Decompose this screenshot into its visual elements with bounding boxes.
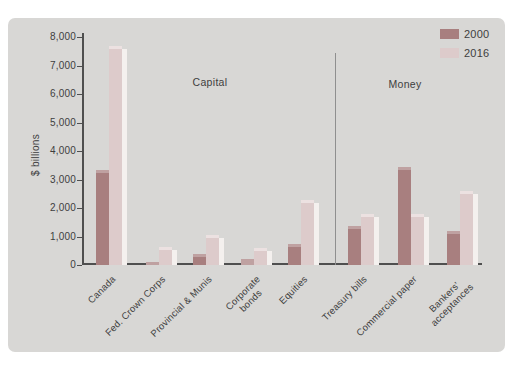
y-tick-mark: [77, 151, 82, 152]
bar-side-highlight: [267, 251, 272, 265]
y-tick-label: 2,000: [36, 202, 76, 213]
bar-bankers-acceptances-2016: [460, 191, 473, 265]
bar-commercial-paper-2000: [398, 167, 411, 265]
y-tick-label: 0: [36, 259, 76, 270]
y-tick-label: 1,000: [36, 231, 76, 242]
y-tick-label: 5,000: [36, 117, 76, 128]
x-axis-label-canada: Canada: [86, 274, 118, 306]
bar-commercial-paper-2016: [411, 214, 424, 265]
y-tick-label: 3,000: [36, 174, 76, 185]
y-axis-line: [82, 33, 84, 265]
y-tick-label: 4,000: [36, 145, 76, 156]
y-tick-label: 8,000: [36, 31, 76, 42]
figure: $ billions 01,0002,0003,0004,0005,0006,0…: [0, 0, 518, 365]
legend-swatch-2000: [440, 29, 459, 39]
bar-treasury-bills-2000: [348, 226, 361, 265]
bar-equities-2016: [301, 200, 314, 265]
bar-side-highlight: [219, 238, 224, 265]
bar-fed-crown-corps-2016: [159, 247, 172, 265]
y-tick-label: 7,000: [36, 60, 76, 71]
x-axis-label-treasury-bills: Treasury bills: [320, 274, 369, 323]
y-tick-mark: [77, 123, 82, 124]
bar-side-highlight: [374, 217, 379, 265]
legend-item-2000: 2000: [440, 28, 489, 40]
x-axis-label-equities: Equities: [277, 274, 310, 307]
bar-corporate-bonds-2000: [241, 259, 254, 265]
bar-provincial-munis-2000: [193, 254, 206, 265]
y-tick-mark: [77, 265, 82, 266]
legend-label-2000: 2000: [464, 28, 489, 40]
bar-side-highlight: [473, 194, 478, 265]
section-label-money: Money: [388, 78, 421, 90]
bar-side-highlight: [122, 49, 127, 265]
bar-canada-2016: [109, 46, 122, 265]
chart-panel: $ billions 01,0002,0003,0004,0005,0006,0…: [8, 18, 505, 352]
y-tick-mark: [77, 66, 82, 67]
legend-swatch-2016: [440, 48, 459, 58]
y-tick-mark: [77, 237, 82, 238]
y-tick-mark: [77, 180, 82, 181]
y-tick-label: 6,000: [36, 88, 76, 99]
y-tick-mark: [77, 37, 82, 38]
section-label-capital: Capital: [193, 76, 228, 88]
legend: 20002016: [440, 28, 489, 66]
bar-bankers-acceptances-2000: [447, 231, 460, 265]
y-tick-mark: [77, 94, 82, 95]
x-axis-label-corporate-bonds: Corporatebonds: [224, 274, 271, 321]
bar-corporate-bonds-2016: [254, 248, 267, 265]
bar-treasury-bills-2016: [361, 214, 374, 265]
section-divider-line: [335, 53, 336, 265]
bar-fed-crown-corps-2000: [146, 262, 159, 265]
bar-side-highlight: [314, 203, 319, 265]
bar-canada-2000: [96, 170, 109, 265]
bar-equities-2000: [288, 244, 301, 265]
x-axis-label-bankers-acceptances: Bankers'acceptances: [422, 274, 477, 329]
bar-side-highlight: [172, 250, 177, 265]
legend-item-2016: 2016: [440, 47, 489, 59]
bar-provincial-munis-2016: [206, 235, 219, 265]
legend-label-2016: 2016: [464, 47, 489, 59]
bar-side-highlight: [424, 217, 429, 265]
y-tick-mark: [77, 208, 82, 209]
